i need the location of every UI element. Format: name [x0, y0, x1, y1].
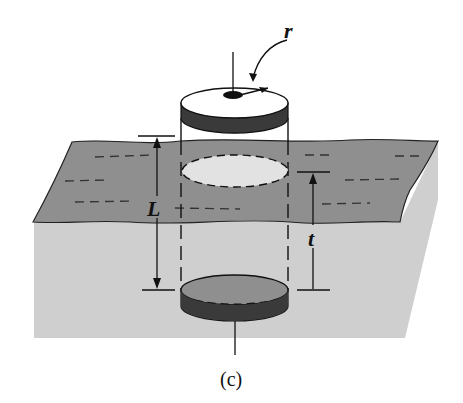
- radius-label: r: [284, 18, 293, 44]
- figure: r L t (c): [0, 0, 463, 403]
- top-disk: [181, 40, 288, 133]
- cylinder-diagram: [0, 0, 463, 403]
- length-label: L: [147, 196, 160, 222]
- thickness-label: t: [308, 226, 314, 252]
- sheet-hole-ellipse: [182, 155, 288, 187]
- bottom-disk: [181, 275, 288, 355]
- figure-caption: (c): [220, 368, 242, 391]
